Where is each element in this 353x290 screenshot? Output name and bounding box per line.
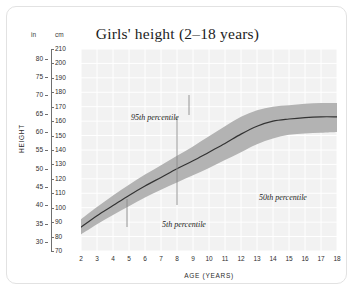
unit-header-centimeters: cm bbox=[55, 31, 64, 38]
x-axis-title: AGE (YEARS) bbox=[81, 272, 337, 279]
y-tick-mark-cm bbox=[51, 251, 54, 252]
y-tick-mark-cm bbox=[51, 49, 54, 50]
x-tick-label: 14 bbox=[265, 255, 281, 262]
x-tick-label: 17 bbox=[313, 255, 329, 262]
y-axis-title: HEIGHT bbox=[18, 109, 25, 169]
y-tick-label-inches: 70 bbox=[25, 91, 43, 98]
y-tick-mark-cm bbox=[51, 237, 54, 238]
y-tick-label-cm: 150 bbox=[55, 132, 66, 139]
y-tick-mark-inches bbox=[45, 169, 48, 170]
y-tick-label-cm: 200 bbox=[55, 59, 66, 66]
x-tick-label: 11 bbox=[217, 255, 233, 262]
y-tick-label-cm: 80 bbox=[55, 233, 62, 240]
x-tick-label: 7 bbox=[153, 255, 169, 262]
y-tick-label-inches: 35 bbox=[25, 220, 43, 227]
y-tick-mark-inches bbox=[45, 242, 48, 243]
x-tick-label: 8 bbox=[169, 255, 185, 262]
y-tick-mark-cm bbox=[51, 222, 54, 223]
y-tick-mark-cm bbox=[51, 179, 54, 180]
y-tick-mark-cm bbox=[51, 136, 54, 137]
y-tick-mark-inches bbox=[45, 59, 48, 60]
y-tick-label-cm: 130 bbox=[55, 160, 66, 167]
annotation-50th-percentile: 50th percentile bbox=[259, 193, 307, 202]
y-tick-label-cm: 160 bbox=[55, 117, 66, 124]
x-tick-label: 5 bbox=[121, 255, 137, 262]
x-tick-label: 4 bbox=[105, 255, 121, 262]
y-tick-mark-inches bbox=[45, 187, 48, 188]
x-tick-label: 9 bbox=[185, 255, 201, 262]
y-tick-mark-inches bbox=[45, 114, 48, 115]
x-tick-label: 2 bbox=[73, 255, 89, 262]
x-tick-label: 18 bbox=[329, 255, 345, 262]
y-tick-label-cm: 210 bbox=[55, 45, 66, 52]
y-tick-mark-cm bbox=[51, 92, 54, 93]
y-tick-mark-cm bbox=[51, 107, 54, 108]
annotation-5th-percentile: 5th percentile bbox=[162, 220, 206, 229]
x-tick-label: 13 bbox=[249, 255, 265, 262]
y-tick-mark-inches bbox=[45, 95, 48, 96]
y-tick-mark-cm bbox=[51, 164, 54, 165]
x-tick-label: 6 bbox=[137, 255, 153, 262]
y-tick-mark-cm bbox=[51, 78, 54, 79]
y-tick-label-inches: 40 bbox=[25, 201, 43, 208]
y-tick-label-inches: 50 bbox=[25, 165, 43, 172]
y-tick-mark-cm bbox=[51, 121, 54, 122]
y-tick-label-cm: 100 bbox=[55, 204, 66, 211]
y-tick-label-inches: 55 bbox=[25, 146, 43, 153]
y-tick-label-cm: 190 bbox=[55, 74, 66, 81]
y-tick-mark-cm bbox=[51, 208, 54, 209]
y-tick-mark-inches bbox=[45, 77, 48, 78]
y-tick-label-cm: 140 bbox=[55, 146, 66, 153]
y-tick-label-cm: 180 bbox=[55, 88, 66, 95]
y-tick-label-inches: 65 bbox=[25, 110, 43, 117]
y-tick-label-inches: 30 bbox=[25, 238, 43, 245]
y-tick-mark-cm bbox=[51, 193, 54, 194]
x-tick-label: 15 bbox=[281, 255, 297, 262]
y-tick-mark-cm bbox=[51, 150, 54, 151]
y-tick-label-cm: 120 bbox=[55, 175, 66, 182]
y-tick-label-cm: 170 bbox=[55, 103, 66, 110]
x-tick-label: 10 bbox=[201, 255, 217, 262]
y-tick-label-cm: 70 bbox=[55, 247, 62, 254]
growth-curves bbox=[81, 49, 337, 251]
x-tick-label: 3 bbox=[89, 255, 105, 262]
unit-header-inches: in bbox=[31, 31, 36, 38]
y-tick-label-inches: 75 bbox=[25, 73, 43, 80]
y-tick-label-cm: 90 bbox=[55, 218, 62, 225]
annotation-95th-percentile: 95th percentile bbox=[131, 113, 179, 122]
x-tick-label: 12 bbox=[233, 255, 249, 262]
y-tick-label-inches: 60 bbox=[25, 128, 43, 135]
y-tick-mark-inches bbox=[45, 132, 48, 133]
y-tick-label-inches: 80 bbox=[25, 55, 43, 62]
x-tick-label: 16 bbox=[297, 255, 313, 262]
y-tick-label-cm: 110 bbox=[55, 189, 65, 196]
y-tick-mark-inches bbox=[45, 224, 48, 225]
plot-area bbox=[81, 49, 337, 251]
y-tick-label-inches: 45 bbox=[25, 183, 43, 190]
y-tick-mark-inches bbox=[45, 150, 48, 151]
chart-card: Girls' height (2–18 years) in cm HEIGHT … bbox=[6, 6, 347, 284]
y-tick-mark-cm bbox=[51, 63, 54, 64]
y-tick-mark-inches bbox=[45, 205, 48, 206]
